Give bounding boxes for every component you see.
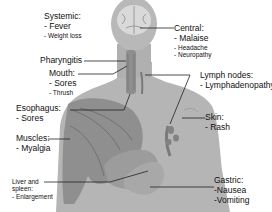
central-item: - Headache	[174, 44, 212, 51]
mouth-item: - Thrush	[49, 89, 76, 96]
symptom-diagram: Systemic: - Fever - Weight loss Central:…	[0, 0, 272, 212]
skin-item: - Rash	[205, 123, 230, 133]
lymph-item: - Lymphadenopathy	[200, 81, 272, 91]
liver-title-line2: spleen:	[12, 185, 53, 192]
label-lymph-nodes: Lymph nodes: - Lymphadenopathy	[200, 71, 272, 91]
label-pharyngitis: Pharyngitis	[40, 56, 82, 66]
central-item: - Neuropathy	[174, 51, 212, 58]
label-skin: Skin: - Rash	[205, 113, 230, 133]
gastric-item: -Vomiting	[214, 196, 249, 206]
label-esophagus: Esophagus: - Sores	[16, 104, 61, 124]
pharyngitis-title: Pharyngitis	[40, 56, 82, 66]
central-item: - Malaise	[174, 34, 212, 44]
liver-item: - Enlargement	[12, 193, 53, 200]
systemic-item: - Fever	[44, 22, 81, 32]
esophagus-icon	[126, 50, 136, 94]
label-systemic: Systemic: - Fever - Weight loss	[44, 12, 81, 39]
label-mouth: Mouth: - Sores - Thrush	[49, 69, 76, 96]
muscles-item: - Myalgia	[16, 144, 50, 154]
label-muscles: Muscles: - Myalgia	[16, 134, 50, 154]
esophagus-item: - Sores	[16, 114, 61, 124]
mouth-item: - Sores	[49, 79, 76, 89]
liver-title-line1: Liver and	[12, 178, 53, 185]
label-central: Central: - Malaise - Headache - Neuropat…	[174, 24, 212, 58]
systemic-item: - Weight loss	[44, 32, 81, 39]
label-gastric: Gastric: -Nausea -Vomiting	[214, 176, 249, 205]
label-liver-spleen: Liver and spleen: - Enlargement	[12, 178, 53, 200]
